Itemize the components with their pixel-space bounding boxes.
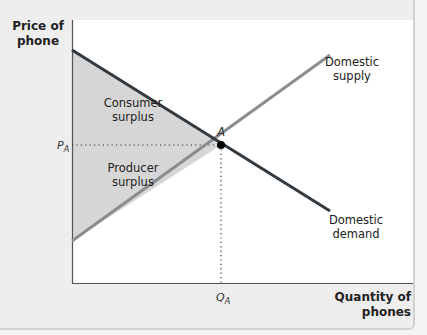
y-axis-label-line1: Price of [12,19,65,33]
producer-surplus-label-line2: surplus [112,175,154,189]
equilibrium-label: A [216,125,225,139]
y-axis-label-line2: phone [17,34,59,48]
consumer-surplus-label-line1: Consumer [104,96,163,110]
x-axis-label-line2: phones [362,305,411,319]
consumer-surplus-label-line2: surplus [112,110,154,124]
demand-label-line2: demand [332,227,379,241]
supply-label-line1: Domestic [325,55,379,69]
x-axis-label-line1: Quantity of [335,290,412,304]
demand-label-line1: Domestic [329,213,383,227]
equilibrium-point [217,141,225,149]
quantity-label: QA [216,291,230,306]
chart-svg: A Price of phone Quantity of phones PA Q… [0,0,427,335]
supply-label-line2: supply [333,69,371,83]
producer-surplus-label-line1: Producer [108,161,159,175]
price-label: PA [57,139,69,154]
